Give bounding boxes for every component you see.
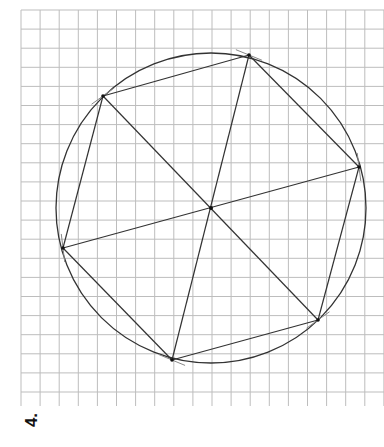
vertex-C [357, 165, 361, 169]
inscribed-hexagon-diagram [0, 0, 384, 447]
problem-number-label: 4. [20, 408, 44, 432]
vertex-B [247, 53, 251, 57]
vertex-D [316, 318, 320, 322]
hexagon-edge-EF [63, 248, 172, 360]
vertex-A [101, 94, 105, 98]
vertex-E [170, 358, 174, 362]
center-point [209, 206, 213, 210]
hexagon-edge-BC [249, 55, 359, 167]
hexagon-edge-AB [103, 55, 249, 96]
graph-paper-grid [21, 10, 384, 406]
vertex-F [61, 246, 65, 250]
